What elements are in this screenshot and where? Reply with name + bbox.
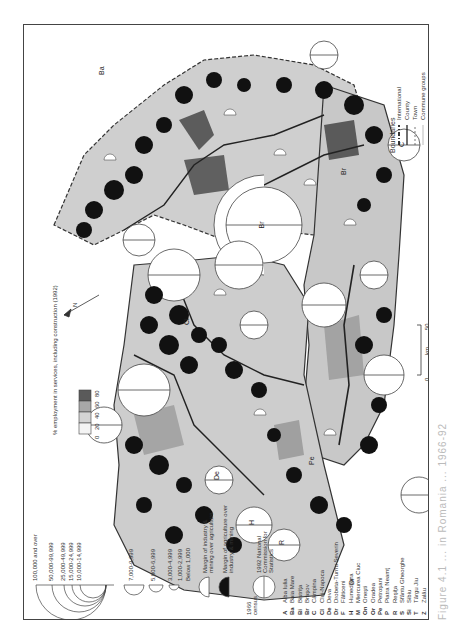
scale-unit: km <box>424 347 429 355</box>
svg-text:De: De <box>213 471 220 480</box>
town-key-item: BrBraşov <box>304 584 310 615</box>
town-key-item: TTârgu Jiu <box>413 578 419 615</box>
town-key-item: AAlba Iulia <box>282 578 288 615</box>
town-code: C <box>311 603 317 615</box>
town-code: Cl <box>319 603 325 615</box>
town-name: Baia Mare <box>289 576 295 603</box>
caption-text: Figure 4.1 ... in Romania ... 1966-92 <box>437 423 448 620</box>
town-name: Drobeta-Turnu Severin <box>333 542 339 603</box>
pop-class-6: 5,000-6,999 <box>150 549 156 581</box>
pop-class-1: 50,000-99,999 <box>48 542 54 581</box>
town-code: Pe <box>377 603 383 615</box>
town-key-item: BiBistriţa <box>297 585 303 615</box>
town-name: Oradea <box>370 583 376 603</box>
town-key-item: PePetroşani <box>377 578 383 615</box>
boundaries-title: Boundaries <box>389 118 396 153</box>
services-tick-40: 40 <box>94 412 100 419</box>
town-code: Br <box>304 603 310 615</box>
town-code: Z <box>421 603 427 615</box>
margin-agriculture-label: Margin of agriculture over industry & mi… <box>222 503 234 573</box>
town-code: R <box>392 603 398 615</box>
town-code: Bi <box>297 603 303 615</box>
town-key-item: OnOneşti <box>362 586 368 615</box>
town-name: Braşov <box>304 584 310 603</box>
pop-class-0: 100,000 and over <box>32 534 38 581</box>
town-key-item: MMiercurea Ciuc <box>355 563 361 615</box>
services-legend-title: % employment in services, including cons… <box>52 285 58 435</box>
svg-text:H: H <box>248 520 255 525</box>
town-key-item: FFălticeni <box>340 581 346 615</box>
census-1992-label: 1992 National Commission for Statistics <box>256 523 274 573</box>
north-arrow-label: N <box>72 303 78 307</box>
town-name: Piatra Neamţ <box>384 568 390 603</box>
svg-text:R: R <box>278 540 285 545</box>
town-name: Alba Iulia <box>282 578 288 603</box>
town-name: Miercurea Ciuc <box>355 563 361 603</box>
town-name: Deva <box>326 589 332 603</box>
scale-end: 50 <box>424 323 429 330</box>
services-tick-0: 0 <box>94 436 100 439</box>
town-name: Sibiu <box>406 590 412 603</box>
town-key-item: ZZalău <box>421 588 427 615</box>
boundary-town: Town <box>412 106 418 120</box>
services-tick-80: 80 <box>94 390 100 397</box>
svg-text:Br: Br <box>258 221 265 229</box>
town-code: P <box>384 603 390 615</box>
town-code: Si <box>406 603 412 615</box>
figure-caption: Figure 4.1 ... in Romania ... 1966-92 <box>437 150 457 620</box>
boundary-commune-groups: Commune groups <box>420 72 426 120</box>
town-key-item: OrOradea <box>370 583 376 615</box>
town-code: F <box>340 603 346 615</box>
town-name: Câmpina <box>311 579 317 603</box>
boundary-county: County <box>404 101 410 120</box>
pop-class-3: 15,000-24,999 <box>68 542 74 581</box>
pop-class-2: 25,000-49,999 <box>60 542 66 581</box>
svg-text:Br: Br <box>340 167 347 175</box>
svg-text:Ba: Ba <box>98 66 105 75</box>
pop-class-5: 7,000-9,999 <box>128 549 134 581</box>
town-key-item: PPiatra Neamţ <box>384 568 390 615</box>
town-key-item: ClCluj-Napoca <box>319 570 325 615</box>
town-key-item: BaBaia Mare <box>289 576 295 615</box>
town-code: On <box>362 603 368 615</box>
town-key-item: SiSibiu <box>406 590 412 615</box>
town-key-item: DrDrobeta-Turnu Severin <box>333 542 339 615</box>
town-code: A <box>282 603 288 615</box>
pop-class-4: 10,000-14,999 <box>76 542 82 581</box>
town-name: Sfântu Gheorghe <box>399 557 405 603</box>
pop-class-8: 1,000-2,999 <box>177 549 183 581</box>
boundary-international: International <box>396 87 402 120</box>
services-tick-60: 60 <box>94 401 100 408</box>
town-name: Târgu Jiu <box>413 578 419 603</box>
svg-text:Pe: Pe <box>308 456 315 465</box>
town-name: Oneşti <box>362 586 368 603</box>
town-name: Zalău <box>421 588 427 603</box>
town-code: Dr <box>333 603 339 615</box>
census-1966-label: 1966 census <box>246 591 258 615</box>
town-name: Petroşani <box>377 578 383 603</box>
town-name: Reşiţa <box>392 586 398 603</box>
services-tick-20: 20 <box>94 423 100 430</box>
scale-start: 0 <box>424 378 429 381</box>
town-key-item: HHunedoara <box>348 573 354 615</box>
town-code: H <box>348 603 354 615</box>
town-key-item: DeDeva <box>326 589 332 615</box>
town-key-item: SSfântu Gheorghe <box>399 557 405 615</box>
town-key-item: RReşiţa <box>392 586 398 615</box>
town-code: M <box>355 603 361 615</box>
svg-text:Cl: Cl <box>183 318 190 325</box>
pop-class-7: 3,000-4,999 <box>167 549 173 581</box>
town-name: Fălticeni <box>340 581 346 603</box>
town-code: De <box>326 603 332 615</box>
map-frame: Br Ba Cl Br De H R Pe Dr C <box>23 24 429 620</box>
town-code: S <box>399 603 405 615</box>
pop-class-9: Below 1,000 <box>185 548 191 581</box>
town-name: Cluj-Napoca <box>319 570 325 603</box>
margin-industry-label: Margin of industry & mining over agricul… <box>202 503 214 573</box>
town-key-item: CCâmpina <box>311 579 317 615</box>
town-code: Ba <box>289 603 295 615</box>
town-name: Bistriţa <box>297 585 303 603</box>
town-code: T <box>413 603 419 615</box>
town-code: Or <box>370 603 376 615</box>
town-name: Hunedoara <box>348 573 354 603</box>
